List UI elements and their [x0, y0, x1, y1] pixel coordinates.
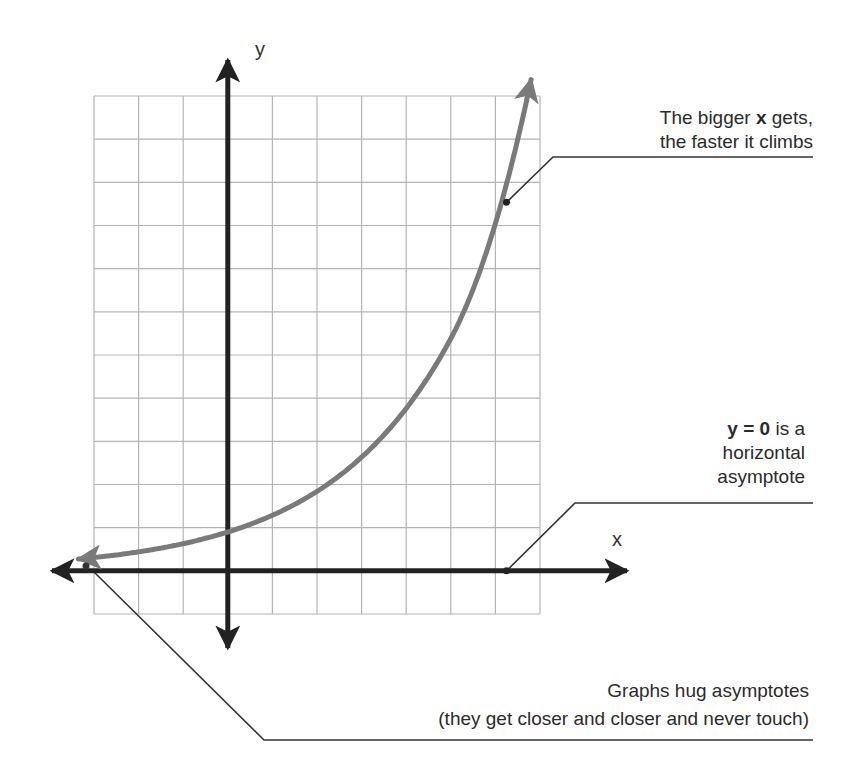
- marked-points: [83, 199, 511, 575]
- annotation-hug-line2: (they get closer and closer and never to…: [289, 705, 809, 733]
- annotation-hug: Graphs hug asymptotes (they get closer a…: [289, 677, 809, 733]
- annotation-asymptote-line3: asymptote: [605, 465, 805, 489]
- y-axis-label: y: [255, 38, 265, 61]
- text: The bigger: [660, 107, 756, 128]
- grid-lines: [94, 96, 540, 614]
- annotation-asymptote-line1: y = 0 is a: [605, 417, 805, 441]
- bold-x: x: [756, 107, 767, 128]
- annotation-climb-line2: the faster it climbs: [513, 130, 813, 154]
- annotation-climb-line1: The bigger x gets,: [513, 106, 813, 130]
- hug-point-dot: [83, 563, 90, 570]
- asymptote-point-dot: [503, 567, 510, 574]
- leader-line-asymptote: [507, 503, 813, 571]
- climb-point-dot: [503, 199, 510, 206]
- growth-curve: [78, 80, 531, 559]
- annotation-asymptote: y = 0 is a horizontal asymptote: [605, 417, 805, 489]
- leader-line-climb: [507, 157, 813, 202]
- annotation-climb: The bigger x gets, the faster it climbs: [513, 106, 813, 154]
- annotation-hug-line1: Graphs hug asymptotes: [289, 677, 809, 705]
- bold-equation: y = 0: [727, 418, 770, 439]
- annotation-asymptote-line2: horizontal: [605, 441, 805, 465]
- x-axis-label: x: [612, 528, 622, 551]
- text: is a: [770, 418, 805, 439]
- exponential-curve: [78, 80, 531, 559]
- text: gets,: [767, 107, 813, 128]
